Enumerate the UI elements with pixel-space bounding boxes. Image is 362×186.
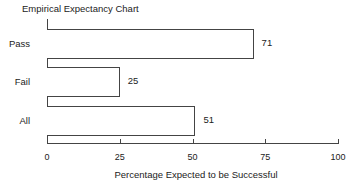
x-tick xyxy=(120,139,121,143)
category-label: Pass xyxy=(0,38,30,49)
x-tick-label: 75 xyxy=(260,152,270,162)
x-axis-label: Percentage Expected to be Successful xyxy=(0,169,362,180)
x-tick-label: 0 xyxy=(44,152,49,162)
category-label: Fail xyxy=(0,76,30,87)
x-tick xyxy=(265,139,266,143)
value-label: 71 xyxy=(262,37,273,48)
x-tick xyxy=(193,139,194,143)
bar-all xyxy=(47,106,195,136)
chart-title: Empirical Expectancy Chart xyxy=(22,3,139,14)
x-axis xyxy=(47,143,339,144)
x-tick xyxy=(338,139,339,143)
bar-fail xyxy=(47,67,120,97)
bar-pass xyxy=(47,29,254,59)
value-label: 51 xyxy=(203,114,214,125)
x-tick-label: 50 xyxy=(187,152,197,162)
category-label: All xyxy=(0,115,30,126)
value-label: 25 xyxy=(128,75,139,86)
x-tick-label: 25 xyxy=(115,152,125,162)
x-tick-label: 100 xyxy=(330,152,345,162)
